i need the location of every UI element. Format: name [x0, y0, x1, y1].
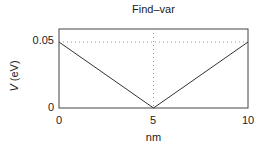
y-axis-variable: V [8, 84, 20, 91]
y-axis-unit: (eV) [8, 60, 20, 84]
xtick-5: 5 [141, 114, 165, 126]
ytick-0: 0 [14, 101, 54, 113]
ytick-0.05: 0.05 [14, 34, 54, 46]
y-axis-label: V (eV) [8, 60, 20, 91]
xtick-10: 10 [236, 114, 260, 126]
xtick-0: 0 [47, 114, 71, 126]
plot-frame [59, 29, 248, 108]
plot-area [0, 0, 264, 149]
data-line-V [59, 42, 248, 108]
x-axis-label: nm [59, 131, 248, 143]
